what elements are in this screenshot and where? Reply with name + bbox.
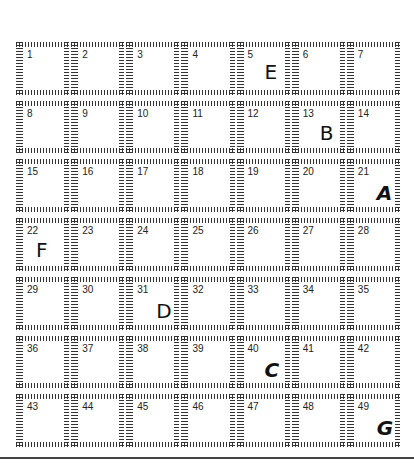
cell-hatched-border-left	[237, 218, 244, 271]
cell-hatched-border-left	[292, 101, 299, 154]
cell-hatched-border-right	[395, 159, 400, 212]
grid-cell-27: 27	[292, 218, 345, 271]
cell-number: 6	[303, 50, 309, 60]
grid-cell-39: 39	[181, 336, 234, 389]
grid-cell-48: 48	[292, 394, 345, 447]
cell-hatched-border-right	[395, 42, 400, 95]
cell-hatched-border-left	[71, 394, 78, 447]
grid-cell-41: 41	[292, 336, 345, 389]
cell-hatched-border-left	[292, 218, 299, 271]
grid-cell-28: 28	[347, 218, 400, 271]
cell-number: 10	[137, 109, 148, 119]
cell-hatched-border-right	[340, 218, 345, 271]
cell-hatched-border-right	[285, 42, 290, 95]
grid-cell-25: 25	[181, 218, 234, 271]
cell-hatched-border-left	[181, 394, 188, 447]
cell-hatched-border-left	[347, 101, 354, 154]
cell-hatched-border-left	[347, 42, 354, 95]
cell-number: 37	[82, 344, 93, 354]
cell-number: 12	[248, 109, 259, 119]
cell-hatched-border-right	[119, 101, 124, 154]
grid-cell-23: 23	[71, 218, 124, 271]
grid-cell-6: 6	[292, 42, 345, 95]
cell-number: 16	[82, 167, 93, 177]
cell-number: 9	[82, 109, 88, 119]
grid-cell-43: 43	[16, 394, 69, 447]
cell-hatched-border-left	[237, 42, 244, 95]
cell-hatched-border-right	[285, 336, 290, 389]
cell-hatched-border-left	[237, 394, 244, 447]
cell-number: 47	[248, 402, 259, 412]
cell-number: 28	[358, 226, 369, 236]
cell-number: 30	[82, 285, 93, 295]
cell-hatched-border-left	[71, 101, 78, 154]
cell-number: 26	[248, 226, 259, 236]
cell-hatched-border-left	[126, 42, 133, 95]
cell-hatched-border-right	[64, 218, 69, 271]
grid-cell-12: 12	[237, 101, 290, 154]
cell-hatched-border-right	[174, 159, 179, 212]
cell-letter: A	[377, 183, 392, 203]
cell-hatched-border-left	[347, 159, 354, 212]
cell-number: 22	[27, 226, 38, 236]
cell-number: 25	[192, 226, 203, 236]
cell-hatched-border-left	[71, 218, 78, 271]
cell-hatched-border-left	[292, 42, 299, 95]
cell-hatched-border-right	[230, 394, 235, 447]
cell-number: 40	[248, 344, 259, 354]
grid-cell-19: 19	[237, 159, 290, 212]
cell-number: 20	[303, 167, 314, 177]
cell-hatched-border-right	[64, 159, 69, 212]
cell-hatched-border-left	[181, 336, 188, 389]
grid-cell-45: 45	[126, 394, 179, 447]
grid-cell-18: 18	[181, 159, 234, 212]
grid-cell-36: 36	[16, 336, 69, 389]
grid-cell-44: 44	[71, 394, 124, 447]
cell-number: 13	[303, 109, 314, 119]
cell-hatched-border-right	[230, 336, 235, 389]
cell-hatched-border-left	[347, 394, 354, 447]
grid-cell-4: 4	[181, 42, 234, 95]
cell-hatched-border-right	[340, 336, 345, 389]
cell-hatched-border-right	[64, 42, 69, 95]
cell-number: 32	[192, 285, 203, 295]
cell-hatched-border-right	[395, 277, 400, 330]
grid-cell-49: 49G	[347, 394, 400, 447]
cell-number: 34	[303, 285, 314, 295]
grid-cell-9: 9	[71, 101, 124, 154]
cell-hatched-border-right	[285, 394, 290, 447]
cell-number: 45	[137, 402, 148, 412]
cell-hatched-border-right	[285, 277, 290, 330]
cell-number: 18	[192, 167, 203, 177]
grid-cell-32: 32	[181, 277, 234, 330]
grid-cell-21: 21A	[347, 159, 400, 212]
cell-hatched-border-right	[340, 101, 345, 154]
grid-cell-29: 29	[16, 277, 69, 330]
cell-number: 11	[192, 109, 202, 119]
cell-letter: G	[377, 418, 393, 438]
cell-hatched-border-right	[285, 101, 290, 154]
grid-cell-37: 37	[71, 336, 124, 389]
cell-hatched-border-left	[126, 394, 133, 447]
cell-number: 43	[27, 402, 38, 412]
cell-hatched-border-left	[16, 159, 23, 212]
cell-hatched-border-right	[230, 159, 235, 212]
cell-hatched-border-left	[181, 218, 188, 271]
cell-hatched-border-left	[71, 336, 78, 389]
cell-hatched-border-right	[174, 218, 179, 271]
cell-hatched-border-right	[174, 277, 179, 330]
cell-hatched-border-left	[126, 336, 133, 389]
grid-cell-47: 47	[237, 394, 290, 447]
cell-hatched-border-left	[16, 394, 23, 447]
cell-number: 49	[358, 402, 369, 412]
grid-cell-35: 35	[347, 277, 400, 330]
cell-hatched-border-left	[292, 394, 299, 447]
cell-number: 24	[137, 226, 148, 236]
cell-letter: F	[36, 240, 48, 260]
grid-cell-5: 5E	[237, 42, 290, 95]
cell-number: 15	[27, 167, 38, 177]
cell-hatched-border-right	[395, 394, 400, 447]
cell-letter: D	[156, 301, 171, 321]
cell-hatched-border-left	[16, 42, 23, 95]
cell-hatched-border-right	[64, 277, 69, 330]
